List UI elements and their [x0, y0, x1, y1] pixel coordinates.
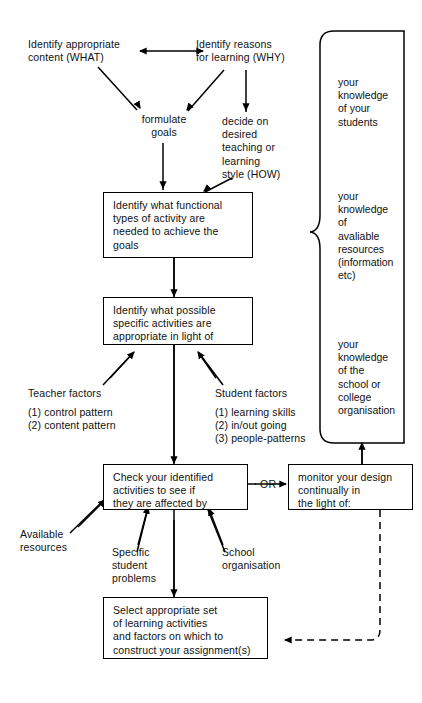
box-monitor-design: monitor your design continually in the l…: [288, 464, 413, 510]
box-check-activities: Check your identified activities to see …: [103, 464, 248, 510]
label-specific-student-problems: Specific student problems: [112, 546, 192, 586]
box-identify-functional-types: Identify what functional types of activi…: [103, 192, 253, 258]
label-or-connector: OR: [260, 478, 276, 490]
label-available-resources: Available resources: [20, 528, 110, 554]
edge-reasons-goals: [188, 70, 224, 111]
flowchart-canvas: Identify appropriate content (WHAT) Iden…: [0, 0, 422, 703]
label-student-factor-3: (3) people-patterns: [215, 432, 345, 445]
edge-monitor-select-dashed: [285, 510, 380, 640]
knowledge-item-organisation: your knowledge of the school or college …: [338, 338, 410, 417]
label-student-factor-1: (1) learning skills: [215, 406, 345, 419]
edge-teacher-specific: [103, 353, 133, 385]
label-student-factors: Student factors: [215, 387, 335, 400]
node-decide-style: decide on desired teaching or learning s…: [222, 115, 302, 181]
node-identify-content: Identify appropriate content (WHAT): [28, 38, 148, 64]
box-identify-specific-activities: Identify what possible specific activiti…: [103, 297, 253, 345]
box-select-appropriate-set: Select appropriate set of learning activ…: [103, 597, 268, 659]
edge-student-specific: [199, 353, 223, 385]
knowledge-item-students: your knowledge of your students: [338, 76, 406, 129]
knowledge-item-resources: your knowledge of avaliable resources (i…: [338, 190, 410, 282]
label-teacher-factor-1: (1) control pattern: [28, 406, 158, 419]
node-formulate-goals: formulate goals: [124, 113, 204, 139]
label-school-organisation: School organisation: [222, 546, 312, 572]
node-identify-reasons: Identify reasons for learning (WHY): [196, 38, 316, 64]
label-student-factor-2: (2) in/out going: [215, 419, 345, 432]
label-teacher-factors: Teacher factors: [28, 387, 148, 400]
label-teacher-factor-2: (2) content pattern: [28, 419, 158, 432]
edge-content-goals: [98, 67, 137, 110]
